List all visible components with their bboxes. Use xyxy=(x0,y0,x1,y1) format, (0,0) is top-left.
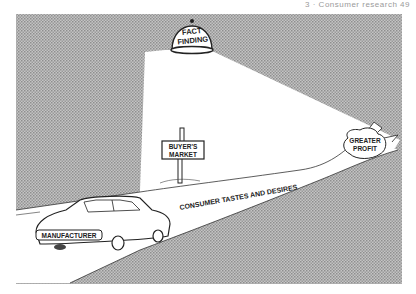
fact-finding-illustration: FACT FINDING BUYER'S MARKET CONSUMER TAS… xyxy=(0,0,416,294)
goal-label-1: GREATER xyxy=(349,137,381,144)
goal-label-2: PROFIT xyxy=(353,145,377,152)
sign-label-2: MARKET xyxy=(169,151,197,158)
sign-label-1: BUYER'S xyxy=(169,143,198,150)
car-label: MANUFACTURER xyxy=(42,232,97,239)
